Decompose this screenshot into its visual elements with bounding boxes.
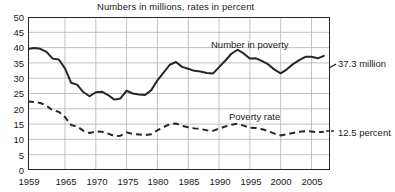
y-tick-label-40: 40 bbox=[2, 42, 24, 53]
y-tick-label-10: 10 bbox=[2, 134, 24, 145]
end-label-poverty-rate: 12.5 percent bbox=[338, 127, 391, 138]
poverty-chart: Numbers in millions, rates in percent 50… bbox=[0, 0, 395, 192]
y-tick-label-0: 0 bbox=[2, 165, 24, 176]
y-tick-label-25: 25 bbox=[2, 88, 24, 99]
x-tick-label-2005: 2005 bbox=[296, 176, 328, 187]
x-tick-label-1995: 1995 bbox=[235, 176, 267, 187]
x-tick-label-1965: 1965 bbox=[50, 176, 82, 187]
end-label-number-in-poverty: 37.3 million bbox=[338, 58, 386, 69]
leader-line-number bbox=[328, 55, 338, 71]
y-tick-label-30: 30 bbox=[2, 73, 24, 84]
y-tick-label-20: 20 bbox=[2, 104, 24, 115]
x-tick-label-1990: 1990 bbox=[204, 176, 236, 187]
y-tick-label-50: 50 bbox=[2, 12, 24, 23]
y-tick-label-5: 5 bbox=[2, 150, 24, 161]
x-tick-label-1970: 1970 bbox=[81, 176, 113, 187]
y-tick-label-35: 35 bbox=[2, 58, 24, 69]
y-tick-label-45: 45 bbox=[2, 27, 24, 38]
x-tick-label-1985: 1985 bbox=[173, 176, 205, 187]
annotation-poverty-rate: Poverty rate bbox=[229, 111, 280, 122]
y-tick-label-15: 15 bbox=[2, 119, 24, 130]
x-tick-label-2000: 2000 bbox=[265, 176, 297, 187]
chart-title: Numbers in millions, rates in percent bbox=[97, 1, 254, 12]
leader-line-rate bbox=[326, 124, 338, 138]
x-tick-label-1975: 1975 bbox=[112, 176, 144, 187]
series-line-number-in-poverty bbox=[28, 48, 324, 100]
x-tick-label-1980: 1980 bbox=[142, 176, 174, 187]
x-tick-label-1959: 1959 bbox=[13, 176, 45, 187]
annotation-number-in-poverty: Number in poverty bbox=[211, 39, 289, 50]
